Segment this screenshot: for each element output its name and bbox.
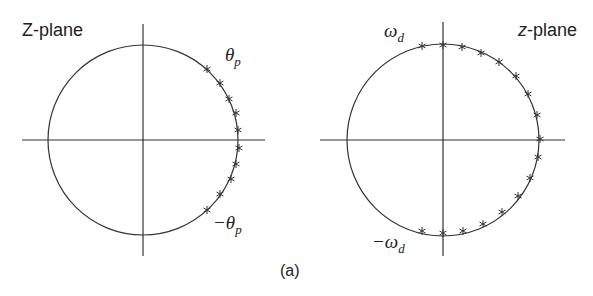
neg-omega-symbol: −ω xyxy=(372,231,398,252)
asterisk-pole-marker xyxy=(513,72,520,80)
theta-symbol: θ xyxy=(225,44,234,65)
right-plane-title-italic: z xyxy=(518,20,527,40)
theta-p-label: θp xyxy=(225,44,241,70)
neg-omega-subscript: d xyxy=(398,241,405,256)
asterisk-pole-marker xyxy=(235,126,242,134)
asterisk-pole-marker xyxy=(440,41,447,49)
neg-theta-subscript: p xyxy=(235,222,242,237)
asterisk-pole-marker xyxy=(236,144,243,152)
left-plane-title-text: Z-plane xyxy=(22,20,83,40)
right-plane-title-rest: -plane xyxy=(527,20,577,40)
pole-zero-plots xyxy=(0,0,593,296)
right-plane-title: z-plane xyxy=(518,20,577,41)
asterisk-pole-marker xyxy=(535,153,542,161)
omega-subscript: d xyxy=(397,30,404,45)
theta-subscript: p xyxy=(234,54,241,69)
neg-theta-p-label: −θp xyxy=(213,212,242,238)
asterisk-pole-marker xyxy=(226,95,233,103)
asterisk-pole-marker xyxy=(480,220,487,228)
omega-symbol: ω xyxy=(384,20,397,41)
neg-omega-d-label: −ωd xyxy=(372,231,405,257)
figure: Z-plane θp −θp ωd −ωd z-plane (a) xyxy=(0,0,593,296)
figure-caption: (a) xyxy=(280,262,300,280)
asterisk-pole-marker xyxy=(496,58,503,66)
asterisk-pole-marker xyxy=(537,135,544,143)
asterisk-pole-marker xyxy=(499,208,506,216)
left-plane-title: Z-plane xyxy=(22,20,83,41)
neg-theta-symbol: −θ xyxy=(213,212,235,233)
omega-d-label: ωd xyxy=(384,20,404,46)
